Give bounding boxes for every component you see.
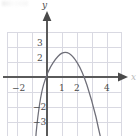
coordinate-plane xyxy=(0,0,137,136)
y-tick-label-minus-3: −3 xyxy=(33,118,46,127)
y-tick-label-minus-2: −2 xyxy=(33,103,46,112)
x-axis xyxy=(3,73,128,82)
y-tick-label-3: 3 xyxy=(37,39,43,48)
x-tick-label-2: 2 xyxy=(74,84,80,93)
graph-figure: y x 3 2 −2 −3 −2 1 2 4 xyxy=(0,0,137,136)
x-tick-label-minus-2: −2 xyxy=(12,84,25,93)
y-tick-label-2: 2 xyxy=(37,54,43,63)
y-axis-label: y xyxy=(42,1,47,10)
x-tick-label-1: 1 xyxy=(59,84,65,93)
x-axis-label: x xyxy=(131,73,136,82)
x-tick-label-4: 4 xyxy=(104,84,110,93)
